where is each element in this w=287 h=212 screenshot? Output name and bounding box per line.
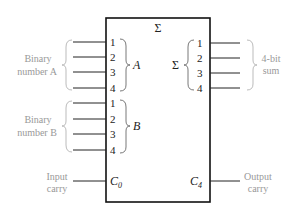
brace-4bit-sum-icon	[247, 40, 257, 90]
sum-label-2: sum	[263, 65, 280, 76]
pin-a4: 4	[110, 82, 116, 94]
bus-sum-label: Σ	[172, 58, 179, 72]
sum-label-1: 4-bit	[262, 53, 281, 64]
carry-out-label-1: Output	[244, 171, 272, 182]
bus-a-label: A	[132, 58, 141, 72]
pin-c0: C0	[110, 174, 122, 190]
pin-b3: 3	[110, 128, 116, 140]
bus-b-label: B	[133, 119, 141, 133]
brace-binary-a-icon	[62, 40, 72, 90]
sigma-title: Σ	[155, 21, 162, 35]
pin-b1: 1	[110, 97, 116, 109]
brace-sum-icon	[184, 40, 194, 90]
brace-b-icon	[120, 100, 130, 153]
binary-b-label-1: Binary	[24, 114, 51, 125]
sum-output-lines	[210, 43, 240, 88]
input-b-lines	[73, 103, 106, 150]
binary-a-label-1: Binary	[24, 53, 51, 64]
input-a-lines	[73, 42, 106, 88]
pin-a3: 3	[110, 66, 116, 78]
carry-in-label-1: Input	[46, 171, 67, 182]
pin-s3: 3	[197, 67, 203, 79]
carry-in-label-2: carry	[47, 183, 68, 194]
pin-s1: 1	[197, 37, 203, 49]
pin-a1: 1	[110, 36, 116, 48]
pin-s2: 2	[197, 52, 203, 64]
brace-a-icon	[120, 39, 130, 91]
pin-b2: 2	[110, 113, 116, 125]
adder-diagram: Σ 1 2 3 4 A Binary number A 1 2 3 4 B Bi…	[0, 0, 287, 212]
pin-b4: 4	[110, 144, 116, 156]
pin-s4: 4	[197, 82, 203, 94]
binary-b-label-2: number B	[17, 127, 57, 138]
carry-out-label-2: carry	[248, 183, 269, 194]
pin-c4: C4	[190, 174, 202, 190]
pin-a2: 2	[110, 51, 116, 63]
binary-a-label-2: number A	[17, 66, 57, 77]
brace-binary-b-icon	[62, 101, 72, 152]
